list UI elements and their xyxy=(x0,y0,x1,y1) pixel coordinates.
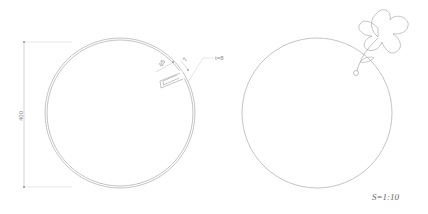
right-view xyxy=(242,10,408,188)
left-view: 400 65 7 t=8 xyxy=(18,38,224,188)
ring-outer xyxy=(45,38,195,188)
scale-label: S=1:10 xyxy=(372,192,400,202)
dimension-400-label: 400 xyxy=(18,110,24,121)
thickness-leader xyxy=(188,58,214,82)
flower-icon xyxy=(359,10,408,53)
thickness-callout: t=8 xyxy=(215,55,224,61)
mirror-circle xyxy=(242,38,392,188)
ring-inner xyxy=(47,40,193,186)
dimension-65-label: 65 xyxy=(158,58,167,67)
technical-drawing: 400 65 7 t=8 S=1:10 xyxy=(0,0,428,214)
hanging-hole xyxy=(354,71,359,76)
dimension-7-label: 7 xyxy=(182,56,189,62)
